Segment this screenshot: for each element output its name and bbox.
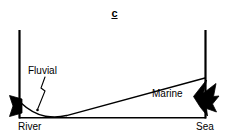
fluvial-leader-line (38, 77, 46, 110)
label-sea: Sea (196, 122, 214, 132)
river-input-arrow-icon (10, 96, 23, 117)
label-river: River (18, 122, 41, 132)
fluvial-leader-dot (36, 109, 39, 112)
panel-title: c (0, 8, 229, 19)
label-fluvial: Fluvial (28, 66, 57, 76)
fluvial-surface-curve (21, 103, 67, 117)
stratigraphic-diagram-panel-c: c Fluvial Marine River Sea (0, 0, 229, 138)
marine-surface-line (67, 78, 206, 116)
label-marine: Marine (152, 89, 183, 99)
